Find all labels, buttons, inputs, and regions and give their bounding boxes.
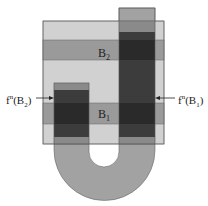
label-fn-b1: fn(B1) [178,93,204,109]
left-bar-top [54,83,89,90]
right-bar-bottom [119,137,155,144]
overlap-b1-left [54,103,89,124]
right-bar-top [119,21,155,32]
horseshoe-diagram: B2 B1 fn(B2) fn(B1) [0,0,208,206]
overlap-b2-right [119,40,155,60]
overlap-b1-right [119,103,155,124]
left-bar-bottom [54,137,89,144]
label-fn-b2: fn(B2) [6,93,32,109]
